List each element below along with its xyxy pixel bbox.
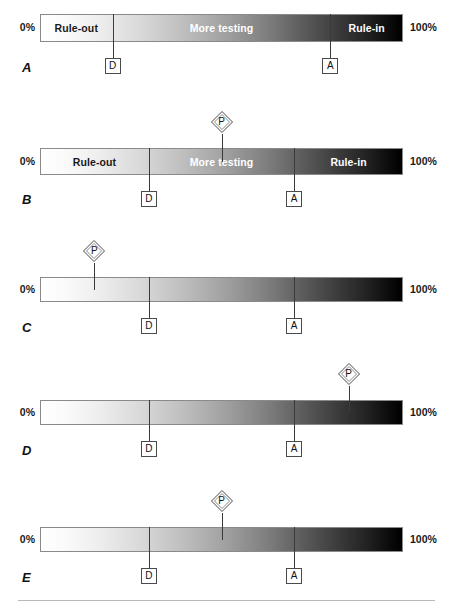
threshold-line <box>294 148 295 191</box>
prior-label: P <box>82 239 106 263</box>
panel-letter: D <box>22 443 31 458</box>
threshold-line <box>294 527 295 568</box>
prior-line <box>222 513 223 540</box>
prior-line <box>349 386 350 413</box>
prior-line <box>222 134 223 162</box>
threshold-line <box>149 400 150 441</box>
threshold-line <box>294 277 295 318</box>
threshold-label-box[interactable]: D <box>141 318 157 334</box>
prior-label: P <box>210 489 234 513</box>
threshold-label-box[interactable]: A <box>286 568 302 584</box>
axis-max-label: 100% <box>410 283 437 295</box>
prior-line <box>94 263 95 290</box>
axis-min-label: 0% <box>20 406 35 418</box>
threshold-line <box>149 148 150 191</box>
threshold-line <box>149 527 150 568</box>
panel-letter: E <box>22 570 31 585</box>
threshold-label-box[interactable]: D <box>105 58 121 74</box>
axis-max-label: 100% <box>410 406 437 418</box>
threshold-line <box>113 14 114 58</box>
axis-max-label: 100% <box>410 533 437 545</box>
bottom-divider <box>18 600 435 601</box>
threshold-label-box[interactable]: D <box>141 568 157 584</box>
probability-bar-a: 0%100%Rule-outMore testingRule-in <box>40 14 403 42</box>
prior-label: P <box>210 110 234 134</box>
panel-letter: A <box>22 60 31 75</box>
axis-min-label: 0% <box>20 283 35 295</box>
axis-max-label: 100% <box>410 155 437 167</box>
threshold-label-box[interactable]: D <box>141 191 157 207</box>
prior-label: P <box>337 362 361 386</box>
threshold-label-box[interactable]: A <box>286 191 302 207</box>
panel-letter: B <box>22 192 31 207</box>
threshold-line <box>330 14 331 58</box>
gradient-bar <box>40 14 403 42</box>
axis-min-label: 0% <box>20 21 35 33</box>
threshold-line <box>149 277 150 318</box>
panel-letter: C <box>22 320 31 335</box>
threshold-label-box[interactable]: A <box>286 441 302 457</box>
axis-min-label: 0% <box>20 533 35 545</box>
threshold-line <box>294 400 295 441</box>
threshold-label-box[interactable]: A <box>322 58 338 74</box>
threshold-label-box[interactable]: D <box>141 441 157 457</box>
axis-max-label: 100% <box>410 21 437 33</box>
threshold-label-box[interactable]: A <box>286 318 302 334</box>
axis-min-label: 0% <box>20 155 35 167</box>
